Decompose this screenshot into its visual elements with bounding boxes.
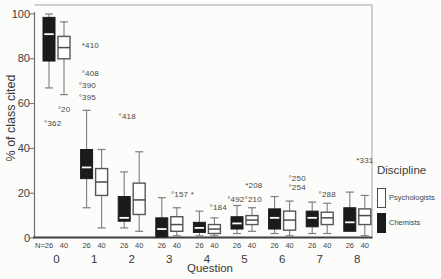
- legend-title: Discipline: [377, 164, 441, 176]
- sample-size-label: 26: [267, 242, 283, 250]
- chemists-box-icon: [377, 213, 386, 233]
- y-tick-label: 0: [4, 233, 30, 244]
- sample-size-label: 26: [41, 242, 57, 250]
- sample-size-label: 26: [304, 242, 320, 250]
- outlier-label: °362: [11, 120, 95, 128]
- sample-size-label: 40: [56, 242, 72, 250]
- outlier-label: °418: [85, 113, 169, 121]
- legend: Discipline Psychologists Chemists: [377, 164, 441, 237]
- sample-size-label: 40: [206, 242, 222, 250]
- sample-size-label: 26: [154, 242, 170, 250]
- outlier-label: °288: [285, 191, 369, 199]
- question-label: 5: [233, 254, 257, 266]
- outlier-label: *331: [323, 157, 407, 165]
- box-chemists-q2: [118, 172, 130, 228]
- box-psychologists-q1: [96, 150, 108, 228]
- question-label: 1: [82, 254, 106, 266]
- outlier-label: °492°210: [203, 196, 287, 204]
- question-label: 7: [308, 254, 332, 266]
- box-psychologists-q6: [284, 201, 296, 236]
- outlier-label: *410: [48, 42, 132, 50]
- boxplot-figure: % of class cited N= Question Discipline …: [0, 0, 441, 279]
- legend-label-psychologists: Psychologists: [389, 193, 435, 202]
- box-psychologists-q4: [208, 218, 220, 236]
- outlier-label: °395: [45, 94, 129, 102]
- box-chemists-q7: [306, 202, 318, 233]
- outlier-label: °184: [176, 204, 260, 212]
- question-label: 3: [157, 254, 181, 266]
- y-tick-label: 100: [4, 9, 30, 20]
- sample-size-label: 40: [319, 242, 335, 250]
- sample-size-label: 26: [79, 242, 95, 250]
- sample-size-label: 40: [244, 242, 260, 250]
- box-psychologists-q8: [359, 195, 371, 235]
- y-tick-label: 20: [4, 188, 30, 199]
- sample-size-label: 40: [357, 242, 373, 250]
- outlier-label: °390: [45, 82, 129, 90]
- sample-size-label: 26: [191, 242, 207, 250]
- sample-size-label: 40: [94, 242, 110, 250]
- sample-size-label: 26: [229, 242, 245, 250]
- sample-size-label: 40: [131, 242, 147, 250]
- y-tick-label: 80: [4, 53, 30, 64]
- y-tick-label: 40: [4, 143, 30, 154]
- sample-size-label: 26: [116, 242, 132, 250]
- question-label: 0: [45, 254, 69, 266]
- question-label: 4: [195, 254, 219, 266]
- question-label: 2: [120, 254, 144, 266]
- legend-label-chemists: Chemists: [389, 218, 420, 227]
- question-label: 8: [345, 254, 369, 266]
- legend-entry-psychologists: Psychologists: [377, 187, 441, 208]
- question-label: 6: [270, 254, 294, 266]
- legend-entry-chemists: Chemists: [377, 212, 441, 233]
- box-chemists-q3: [156, 198, 168, 237]
- outlier-label: °408: [48, 70, 132, 78]
- sample-size-label: 40: [282, 242, 298, 250]
- psychologists-box-icon: [377, 188, 386, 208]
- box-chemists-q4: [193, 211, 205, 236]
- sample-size-label: 26: [342, 242, 358, 250]
- sample-size-label: 40: [169, 242, 185, 250]
- box-psychologists-q7: [321, 203, 333, 233]
